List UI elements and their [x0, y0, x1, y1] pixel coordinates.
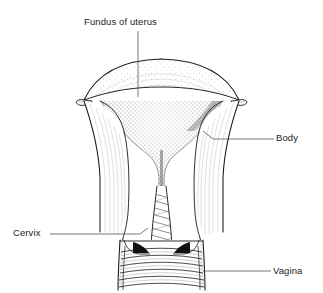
label-vagina: Vagina — [273, 266, 302, 276]
vagina-region — [118, 238, 205, 292]
label-cervix: Cervix — [13, 228, 41, 238]
anatomical-figure: Fundus of uterus Body Cervix Vagina — [0, 0, 323, 293]
uterus-diagram-drawing — [0, 0, 323, 293]
label-fundus-of-uterus: Fundus of uterus — [84, 17, 157, 27]
fundus-region — [76, 56, 247, 106]
cervix-region — [148, 186, 176, 247]
leader-cervix — [50, 228, 148, 234]
label-body: Body — [276, 133, 298, 143]
